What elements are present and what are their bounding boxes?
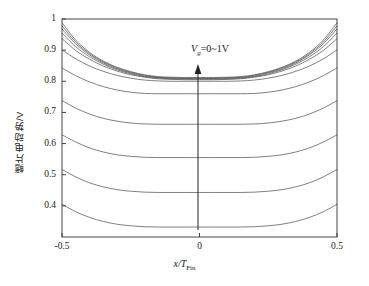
x-axis-label-main: x/T [173,258,186,269]
direction-arrow [195,64,202,230]
annotation-rest: =0~1V [201,43,229,54]
x-axis-label-subscript: Fin [186,264,195,272]
x-axis-label: x/TFin [0,258,369,272]
curve-line [62,135,337,158]
y-axis-tick-label: 0.6 [20,138,56,148]
y-axis-tick-label: 0.5 [20,169,56,179]
y-axis-tick-label: 1 [20,13,56,23]
y-axis-tick-label: 0.8 [20,75,56,85]
x-axis-tick-label: 0.5 [312,241,362,251]
y-axis-tick-label: 0.7 [20,106,56,116]
curve-line [62,101,337,125]
x-axis-tick-label: -0.5 [37,241,87,251]
y-axis-tick-label: 0.4 [20,200,56,210]
y-axis-tick-label: 0.9 [20,44,56,54]
x-axis-tick-label: 0 [175,241,225,251]
curve-line [62,204,337,227]
curve-line [62,169,337,192]
annotation-label: Vg=0~1V [155,43,265,57]
chart-figure: 鳍片电动势/V x/TFin Vg=0~1V 0.40.50.60.70.80.… [0,0,369,286]
